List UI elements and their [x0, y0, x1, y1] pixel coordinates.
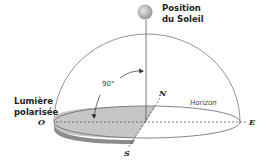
polarized-label-line2: polarisée — [14, 108, 58, 117]
upper-arrowhead-icon — [139, 69, 144, 74]
sun-label-line1: Position — [162, 4, 201, 13]
angle-label: 90° — [102, 81, 114, 88]
polarized-light-diagram: Position du Soleil Lumière polarisée 90°… — [0, 0, 273, 167]
sun-label-line2: du Soleil — [162, 15, 204, 24]
south-label: S — [124, 149, 130, 157]
west-label: O — [38, 118, 45, 126]
polarized-label-line1: Lumière — [14, 97, 53, 106]
horizon-label: Horizon — [190, 100, 217, 107]
north-label: N — [159, 89, 166, 97]
sun-icon — [138, 5, 153, 20]
east-label: E — [249, 118, 255, 126]
sky-dome-graphic — [0, 0, 273, 167]
